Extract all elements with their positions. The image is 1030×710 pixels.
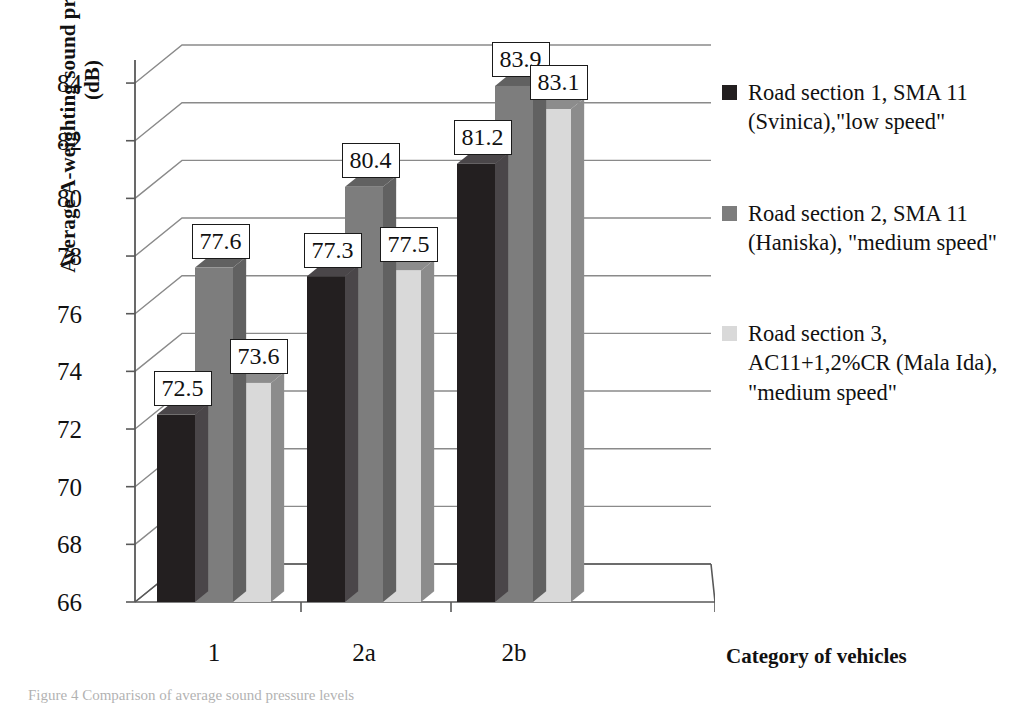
y-tick-label: 80	[38, 186, 82, 211]
bar-data-label: 77.3	[304, 233, 362, 268]
bar-data-label: 77.5	[380, 227, 438, 262]
bar	[457, 153, 508, 602]
plot-area: 72.577.673.677.380.477.581.283.983.1	[95, 40, 715, 640]
y-tick-label: 72	[38, 417, 82, 442]
bar	[157, 404, 208, 602]
bar-data-label: 81.2	[454, 120, 512, 155]
legend-label: Road section 1, SMA 11 (Svinica),"low sp…	[748, 78, 998, 137]
y-tick-label: 84	[38, 71, 82, 96]
y-tick-label: 76	[38, 301, 82, 326]
bar-data-label: 83.1	[530, 65, 588, 100]
legend-item[interactable]: Road section 3, AC11+1,2%CR (Mala Ida), …	[722, 319, 1022, 407]
bar	[307, 266, 358, 602]
legend-item[interactable]: Road section 2, SMA 11 (Haniska), "mediu…	[722, 199, 1022, 258]
bar-data-label: 77.6	[192, 224, 250, 259]
x-tick-label: 2b	[474, 640, 554, 665]
y-tick-label: 66	[38, 590, 82, 615]
y-tick-label: 74	[38, 359, 82, 384]
legend-label: Road section 3, AC11+1,2%CR (Mala Ida), …	[748, 319, 998, 407]
legend-item[interactable]: Road section 1, SMA 11 (Svinica),"low sp…	[722, 78, 1022, 137]
gridline	[135, 45, 711, 83]
bar-data-label: 72.5	[154, 371, 212, 406]
x-axis-tick-labels: 12a2b	[95, 640, 715, 680]
x-tick-label: 2a	[324, 640, 404, 665]
legend-swatch-icon	[722, 326, 737, 341]
gridline	[135, 160, 711, 198]
y-axis-tick-labels: 66687072747678808284	[38, 40, 82, 640]
chart-canvas	[95, 40, 715, 640]
y-tick-label: 70	[38, 474, 82, 499]
legend-swatch-icon	[722, 85, 737, 100]
chart-figure: Average A-weighting sound pressure level…	[0, 0, 1030, 710]
bar-data-label: 73.6	[230, 339, 288, 374]
gridline	[135, 103, 711, 141]
x-tick-label: 1	[174, 640, 254, 665]
x-axis-title: Category of vehicles	[726, 644, 907, 669]
y-tick-label: 68	[38, 532, 82, 557]
y-tick-label: 82	[38, 128, 82, 153]
legend-label: Road section 2, SMA 11 (Haniska), "mediu…	[748, 199, 998, 258]
chart-legend: Road section 1, SMA 11 (Svinica),"low sp…	[722, 78, 1022, 469]
legend-swatch-icon	[722, 206, 737, 221]
y-tick-label: 78	[38, 244, 82, 269]
figure-caption: Figure 4 Comparison of average sound pre…	[28, 687, 354, 704]
bar-data-label: 80.4	[342, 143, 400, 178]
